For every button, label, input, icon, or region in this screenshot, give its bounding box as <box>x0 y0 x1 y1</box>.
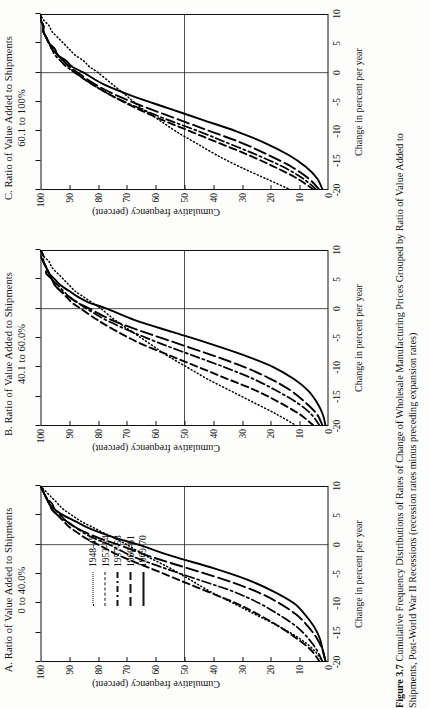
y-tick-mark <box>242 421 243 426</box>
panel-a-plot-area: 1009080706050403020100-20-15-10-50510 19… <box>40 486 328 662</box>
y-tick-mark <box>98 185 99 190</box>
legend-label: 1957-58 <box>111 535 124 567</box>
figure-caption-line2: Shipments, Post-World War II Recessions … <box>406 333 417 708</box>
y-tick-label: 30 <box>237 429 247 439</box>
x-tick-mark <box>35 308 40 309</box>
series-line-1953-54 <box>40 14 314 190</box>
legend-label: 1969-70 <box>136 535 149 567</box>
y-tick-mark <box>98 657 99 662</box>
y-tick-label: 20 <box>265 193 275 203</box>
x-tick-mark <box>35 101 40 102</box>
y-tick-mark <box>299 185 300 190</box>
x-tick-mark <box>35 366 40 367</box>
x-tick-label: -5 <box>331 570 341 578</box>
y-tick-mark <box>270 185 271 190</box>
y-tick-label: 20 <box>265 429 275 439</box>
x-tick-label: -15 <box>331 390 341 403</box>
x-tick-label: -20 <box>331 184 341 197</box>
x-tick-label: 5 <box>331 277 341 282</box>
panel-b: B. Ratio of Value Added to Shipments 40.… <box>0 236 385 472</box>
y-tick-label: 90 <box>64 193 74 203</box>
panel-b-title: B. Ratio of Value Added to Shipments 40.… <box>2 236 27 472</box>
y-tick-mark <box>98 421 99 426</box>
series-line-1969-70 <box>40 14 322 190</box>
y-tick-label: 40 <box>208 429 218 439</box>
legend-item: 1960-61 <box>124 535 137 606</box>
y-tick-label: 70 <box>121 665 131 675</box>
y-tick-mark <box>126 421 127 426</box>
x-tick-mark <box>35 189 40 190</box>
x-tick-mark <box>35 42 40 43</box>
panel-c: C. Ratio of Value Added to Shipments 60.… <box>0 0 385 236</box>
panel-a-ylabel: Cumulative frequency (percent) <box>76 679 236 690</box>
rotated-figure-stage: A. Ratio of Value Added to Shipments 0 t… <box>0 0 429 708</box>
panel-a-title-sub: 0 to 40.0% <box>15 472 28 708</box>
x-tick-label: -20 <box>331 656 341 669</box>
x-tick-label: 10 <box>331 9 341 19</box>
figure-number: Figure 3.7 <box>393 664 404 708</box>
y-tick-mark <box>242 185 243 190</box>
y-tick-mark <box>270 657 271 662</box>
y-tick-label: 50 <box>179 193 189 203</box>
panel-a-title: A. Ratio of Value Added to Shipments 0 t… <box>2 472 27 708</box>
legend-item: 1953-54 <box>99 535 112 606</box>
x-tick-mark <box>35 13 40 14</box>
y-tick-label: 60 <box>150 429 160 439</box>
x-tick-mark <box>35 249 40 250</box>
legend-item: 1948-49 <box>86 535 99 606</box>
x-tick-label: -10 <box>331 361 341 374</box>
legend: 1948-49 1953-54 1957-58 1960-61 <box>86 535 149 606</box>
x-tick-mark <box>35 130 40 131</box>
y-tick-mark <box>299 421 300 426</box>
series-line-1960-61 <box>40 250 322 426</box>
y-tick-label: 60 <box>150 193 160 203</box>
panel-c-xlabel: Change in percent per year <box>352 14 363 190</box>
y-tick-label: 20 <box>265 665 275 675</box>
y-tick-mark <box>299 657 300 662</box>
y-tick-mark <box>184 185 185 190</box>
y-tick-mark <box>184 657 185 662</box>
panel-b-title-sub: 40.1 to 60.0% <box>15 236 28 472</box>
y-tick-label: 40 <box>208 665 218 675</box>
panel-b-plot-area: 1009080706050403020100-20-15-10-50510 <box>40 250 328 426</box>
y-tick-mark <box>213 657 214 662</box>
y-tick-mark <box>69 421 70 426</box>
legend-line-solid-icon <box>142 572 144 606</box>
y-tick-mark <box>126 657 127 662</box>
panel-c-ylabel: Cumulative frequency (percent) <box>76 207 236 218</box>
panel-a: A. Ratio of Value Added to Shipments 0 t… <box>0 472 385 708</box>
x-tick-mark <box>35 573 40 574</box>
figure-caption-line1: Cumulative Frequency Distributions of Ra… <box>393 133 404 661</box>
panel-c-title: C. Ratio of Value Added to Shipments 60.… <box>2 0 27 236</box>
y-tick-mark <box>213 421 214 426</box>
y-tick-mark <box>242 657 243 662</box>
series-line-1957-58 <box>40 14 316 190</box>
panel-b-title-main: B. Ratio of Value Added to Shipments <box>2 272 13 436</box>
panel-b-curves <box>40 250 328 426</box>
x-tick-label: 10 <box>331 481 341 491</box>
legend-line-dashed-icon <box>104 572 105 606</box>
y-tick-mark <box>213 185 214 190</box>
y-tick-mark <box>155 657 156 662</box>
y-tick-label: 40 <box>208 193 218 203</box>
y-tick-label: 70 <box>121 429 131 439</box>
x-tick-label: -5 <box>331 334 341 342</box>
panel-c-curves <box>40 14 328 190</box>
legend-line-long-dash-icon <box>129 572 131 606</box>
x-tick-mark <box>35 544 40 545</box>
x-tick-mark <box>35 485 40 486</box>
x-tick-label: -20 <box>331 420 341 433</box>
y-tick-label: 100 <box>35 665 45 679</box>
x-tick-label: 5 <box>331 41 341 46</box>
y-tick-label: 30 <box>237 193 247 203</box>
x-tick-label: -10 <box>331 597 341 610</box>
legend-item: 1957-58 <box>111 535 124 606</box>
y-tick-mark <box>126 185 127 190</box>
x-tick-label: 0 <box>331 70 341 75</box>
legend-label: 1953-54 <box>99 535 112 567</box>
x-tick-label: -15 <box>331 626 341 639</box>
legend-line-dotted-icon <box>92 572 93 606</box>
legend-label: 1960-61 <box>124 535 137 567</box>
y-tick-mark <box>270 421 271 426</box>
x-tick-mark <box>35 661 40 662</box>
